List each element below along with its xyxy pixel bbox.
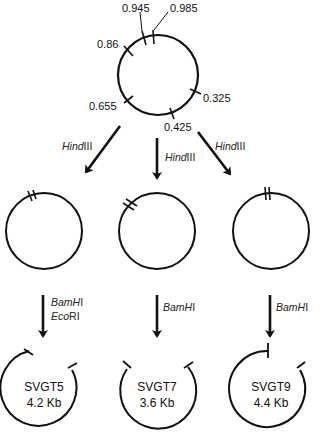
product-label-svgt5: SVGT5 4.2 Kb bbox=[4, 379, 84, 411]
site-label-0655: 0.655 bbox=[89, 100, 117, 112]
parent-plasmid-circle bbox=[118, 12, 201, 119]
enzyme-label-hind-center: HindIII bbox=[165, 150, 195, 164]
product-name: SVGT7 bbox=[117, 379, 197, 395]
site-label-0985: 0.985 bbox=[170, 2, 198, 14]
product-name: SVGT5 bbox=[4, 379, 84, 395]
diagram-canvas bbox=[0, 0, 320, 437]
product-size: 3.6 Kb bbox=[117, 395, 197, 411]
product-name: SVGT9 bbox=[231, 379, 311, 395]
product-label-svgt9: SVGT9 4.4 Kb bbox=[231, 379, 311, 411]
enzyme-label-hind-right: HindIII bbox=[215, 139, 245, 153]
site-label-086: 0.86 bbox=[97, 38, 118, 50]
intermediate-plasmid-left bbox=[6, 190, 82, 269]
site-label-0425: 0.425 bbox=[164, 121, 192, 133]
intermediate-plasmid-right bbox=[233, 187, 309, 269]
enzyme-label-ecori-left: EcoRI bbox=[51, 309, 80, 323]
enzyme-label-hind-left: HindIII bbox=[62, 139, 92, 153]
product-size: 4.2 Kb bbox=[4, 395, 84, 411]
intermediate-plasmid-center bbox=[119, 193, 195, 269]
site-label-0325: 0.325 bbox=[203, 92, 231, 104]
site-label-0945: 0.945 bbox=[122, 2, 150, 14]
product-label-svgt7: SVGT7 3.6 Kb bbox=[117, 379, 197, 411]
enzyme-label-bamhi-right: BamHI bbox=[276, 300, 308, 314]
product-size: 4.4 Kb bbox=[231, 395, 311, 411]
enzyme-label-bamhi-center: BamHI bbox=[163, 300, 195, 314]
enzyme-label-bamhi-left: BamHI bbox=[51, 295, 83, 309]
